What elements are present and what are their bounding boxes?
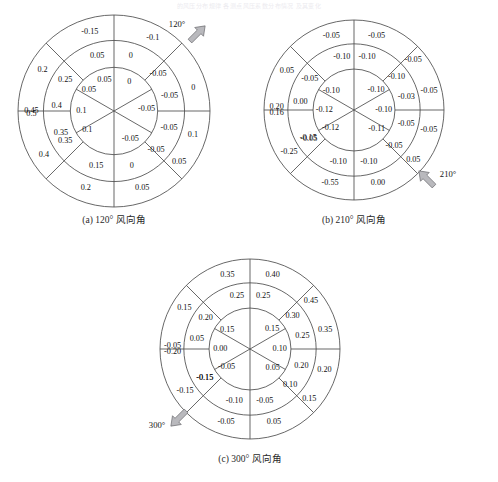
cell-value: 0.1: [76, 106, 86, 115]
cell-value: 0.4: [39, 150, 49, 159]
cell-value: -0.05: [148, 145, 165, 154]
cell-value: -0.12: [316, 105, 333, 114]
cell-value: 0.15: [89, 161, 103, 170]
wind-angle-label: 120°: [169, 19, 186, 29]
cell-value: -0.05: [323, 31, 340, 40]
outer-spoke-3: [186, 378, 221, 413]
cell-value: 0.00: [293, 97, 307, 106]
cell-value: 0.20: [294, 361, 308, 370]
cell-value: -0.10: [333, 52, 350, 61]
wind-angle-label: 300°: [149, 420, 166, 430]
panel-a-polar-chart: 0.05-0.150.20.050-0.1-0.050.250.450.40.0…: [17, 14, 211, 208]
cell-value: 0.00: [371, 178, 385, 187]
cell-value: -0.05: [122, 134, 139, 143]
cell-value: 0.05: [406, 155, 420, 164]
cell-value: -0.05: [301, 74, 318, 83]
cell-value: -0.25: [281, 147, 298, 156]
cell-value: -0.05: [161, 123, 178, 132]
wind-angle-label: 210°: [440, 169, 457, 179]
cell-value: 0.05: [135, 183, 149, 192]
cell-value: 0.25: [295, 331, 309, 340]
panel-c-figure: 0.350.400.150.250.250.450.200.30-0.050.0…: [159, 258, 341, 454]
cell-value: -0.10: [360, 157, 377, 166]
cell-value: 0.20: [199, 313, 213, 322]
cell-value: -0.10: [388, 72, 405, 81]
cell-value: -0.55: [322, 178, 339, 187]
cell-value: -0.10: [330, 157, 347, 166]
cell-value: -0.05: [218, 417, 235, 426]
cell-value: 0.05: [97, 75, 111, 84]
cell-value: 0.30: [285, 311, 299, 320]
cell-value: 0.10: [273, 344, 287, 353]
cell-value: 0.05: [266, 363, 280, 372]
cell-value: -0.15: [81, 27, 98, 36]
cell-value: 0.15: [177, 303, 191, 312]
figure-page: 的风压分布规律 各测点风压系数分布情况 及其变化 0.05-0.150.20.0…: [0, 0, 498, 482]
cell-value: 0.1: [82, 125, 92, 134]
cell-value: 0.15: [302, 394, 316, 403]
cell-value: -0.10: [368, 85, 385, 94]
cell-value: 0.45: [304, 296, 318, 305]
cell-value: -0.05: [256, 396, 273, 405]
cell-value: 0.25: [256, 291, 270, 300]
cell-value: -0.05: [161, 91, 178, 100]
panel-a-caption: (a) 120° 风向角: [17, 212, 211, 226]
cell-value: 0.10: [283, 380, 297, 389]
cell-value: -0.10: [226, 396, 243, 405]
cell-value: 0.35: [220, 270, 234, 279]
panel-b-polar-chart: -0.05-0.050.05-0.10-0.10-0.05-0.05-0.100…: [263, 19, 445, 201]
wind-direction-arrow-icon: [414, 166, 438, 190]
cell-value: -0.05: [421, 86, 438, 95]
cell-value: -0.10: [375, 105, 392, 114]
cell-value: -0.15: [177, 386, 194, 395]
cell-value: -0.10: [323, 86, 340, 95]
panel-b-caption: (b) 210° 风向角: [263, 212, 445, 226]
cell-value: 0.05: [280, 66, 294, 75]
inner-spoke-4: [114, 111, 152, 133]
wind-direction-arrow-icon: [186, 21, 210, 45]
cell-value: 0.25: [230, 291, 244, 300]
cell-value: 0.5: [26, 109, 36, 118]
outer-spoke-3: [290, 139, 325, 174]
cell-value: -0.1: [146, 33, 159, 42]
cell-value: -0.05: [150, 69, 167, 78]
cell-value: -0.05: [138, 104, 155, 113]
panel-c-polar-chart: 0.350.400.150.250.250.450.200.30-0.050.0…: [159, 258, 341, 440]
cell-value: 0.05: [172, 157, 186, 166]
cell-value: -0.03: [398, 92, 415, 101]
cell-value: -0.05: [386, 141, 403, 150]
cell-value: -0.05: [420, 125, 437, 134]
page-header-text: 的风压分布规律 各测点风压系数分布情况 及其变化: [12, 1, 486, 10]
cell-value: 0.15: [265, 324, 279, 333]
cell-value: -0.12: [322, 123, 339, 132]
cell-value: 0.25: [58, 75, 72, 84]
cell-value: -0.05: [368, 31, 385, 40]
cell-value: -0.20: [164, 347, 181, 356]
cell-value: 0.2: [81, 183, 91, 192]
cell-value: -0.05: [218, 362, 235, 371]
panel-a-figure: 0.05-0.150.20.050-0.1-0.050.250.450.40.0…: [17, 14, 211, 222]
cell-value: 0.40: [265, 270, 279, 279]
cell-value: -0.15: [300, 133, 317, 142]
cell-value: 0: [127, 77, 131, 86]
cell-value: 0.05: [82, 85, 96, 94]
cell-value: 0.2: [37, 65, 47, 74]
cell-value: 0.00: [213, 344, 227, 353]
cell-value: -0.11: [368, 124, 385, 133]
cell-value: 0.05: [90, 51, 104, 60]
cell-value: 0.15: [220, 325, 234, 334]
cell-value: 0.35: [58, 136, 72, 145]
cell-value: 0.35: [318, 325, 332, 334]
panel-c-caption: (c) 300° 风向角: [159, 451, 341, 465]
cell-value: 0.20: [317, 365, 331, 374]
cell-value: -0.05: [398, 119, 415, 128]
cell-value: 0: [130, 161, 134, 170]
wind-direction-arrow-icon: [166, 407, 190, 431]
cell-value: 0: [129, 51, 133, 60]
cell-value: -0.10: [359, 52, 376, 61]
outer-spoke-3: [46, 142, 83, 179]
cell-value: 0.1: [188, 130, 198, 139]
cell-value: 0.05: [267, 417, 281, 426]
cell-value: 0.05: [190, 334, 204, 343]
cell-value: -0.05: [405, 55, 422, 64]
